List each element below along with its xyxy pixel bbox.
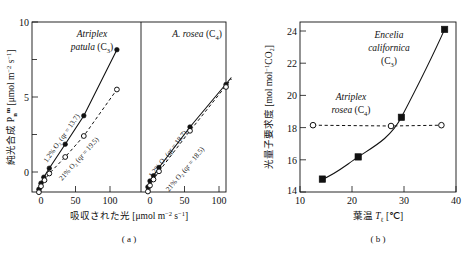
panel-a-ylabel-exp2: −1: [5, 53, 12, 60]
panel-b-xtick-20: 20: [347, 195, 357, 206]
panel-b-c4-line: [313, 125, 441, 126]
panel-a-left-species-line2: patula (C3): [70, 42, 114, 54]
panel-a-ytick-10: 10: [19, 17, 29, 28]
panel-a-left-xticks: 0 50 100: [39, 186, 118, 206]
panel-b: 24 22 20 18 16 14 10 20 30 40 光量子要求度 [mo…: [263, 22, 462, 244]
panel-b-ann-c3: Encelia californica (C3): [368, 30, 410, 68]
panel-b-ann-c3-line1: Encelia: [373, 30, 403, 40]
panel-b-ytick-20: 20: [287, 90, 297, 101]
panel-a-xlabel-exp2: −1: [178, 210, 185, 217]
panel-a-xlabel-end: ]: [185, 211, 188, 221]
panel-a-ylabel: 純光合成 Pnm [μmol m−2 s−1]: [4, 50, 18, 165]
panel-a-xlabel-exp1: −2: [165, 210, 172, 217]
panel-a-right-xtick-0: 0: [148, 195, 153, 206]
panel-a: 10 5 0 0 50 100 0 50 100 純光合成 Pnm [μmol …: [4, 17, 232, 244]
panel-a-ylabel-main: 純光合成 P: [5, 117, 16, 165]
panel-a-left-species-line1: Atriplex: [76, 29, 108, 39]
panel-b-xtick-30: 30: [399, 195, 409, 206]
panel-a-right-xtick-50: 50: [180, 195, 190, 206]
panel-b-caption: ( b ): [371, 234, 386, 244]
panel-b-ylabel-main: 光量子要求度 [mol mol: [263, 71, 274, 169]
panel-a-ylabel-units: [μmol m: [6, 72, 16, 105]
panel-a-xlabel-main: 吸収された光 [μmol m: [70, 210, 166, 221]
svg-text:純光合成 Pnm [μmol m−2 s−1]: 純光合成 Pnm [μmol m−2 s−1]: [4, 50, 18, 165]
panel-a-ylabel-sub: n: [11, 113, 18, 117]
panel-a-ylabel-end: ]: [6, 50, 16, 53]
panel-a-right-xtick-100: 100: [212, 195, 227, 206]
panel-a-right-species: A. rosea (C4): [171, 29, 222, 41]
panel-b-ytick-16: 16: [287, 155, 297, 166]
panel-a-ylabel-exp1: −2: [5, 66, 12, 73]
panel-b-ann-c4: Atriplex rosea (C4): [331, 92, 370, 117]
panel-a-right-open-markers: [146, 85, 229, 194]
panel-b-xtick-10: 10: [295, 195, 305, 206]
panel-a-left-xtick-100: 100: [103, 195, 118, 206]
panel-b-ytick-22: 22: [287, 58, 297, 69]
panel-a-right-dashed-line: [148, 79, 232, 192]
panel-b-ytick-18: 18: [287, 123, 297, 134]
panel-a-frame: [32, 22, 226, 192]
panel-b-ann-c4-line2: rosea (C4): [331, 105, 370, 117]
panel-b-ylabel-exp: −1: [263, 65, 270, 72]
panel-b-ann-c3-line3: (C3): [381, 56, 397, 68]
svg-text:光量子要求度 [mol mol−1CO₂]: 光量子要求度 [mol mol−1CO₂]: [263, 45, 275, 169]
panel-a-ytick-0: 0: [24, 167, 29, 178]
panel-b-ann-c4-line1: Atriplex: [335, 92, 367, 102]
panel-a-yticks: 10 5 0: [19, 17, 38, 178]
panel-a-left-xtick-0: 0: [39, 195, 44, 206]
panel-b-xtick-40: 40: [451, 195, 461, 206]
panel-a-right-xticks: 0 50 100: [148, 186, 227, 206]
panel-a-xlabel: 吸収された光 [μmol m−2 s−1]: [70, 210, 188, 222]
panel-b-ann-c3-line2: californica: [368, 43, 410, 53]
panel-a-ytick-5: 5: [24, 92, 29, 103]
panel-b-ytick-24: 24: [287, 26, 297, 37]
panel-b-xlabel: 葉温 Tℓ [℃]: [353, 210, 404, 223]
figure-container: 10 5 0 0 50 100 0 50 100 純光合成 Pnm [μmol …: [0, 0, 466, 260]
panel-b-ylabel-end: CO₂]: [264, 45, 274, 65]
panel-b-xticks: 10 20 30 40: [295, 186, 461, 206]
panel-a-left-dashed-line: [39, 90, 117, 193]
panel-a-caption: ( a ): [122, 234, 137, 244]
panel-b-ylabel: 光量子要求度 [mol mol−1CO₂]: [263, 45, 275, 169]
panel-a-left-xtick-50: 50: [71, 195, 81, 206]
panel-b-yticks: 24 22 20 18 16 14: [287, 26, 306, 196]
panel-a-left-species: Atriplex patula (C3): [70, 29, 114, 54]
figure-svg: 10 5 0 0 50 100 0 50 100 純光合成 Pnm [μmol …: [0, 0, 466, 260]
